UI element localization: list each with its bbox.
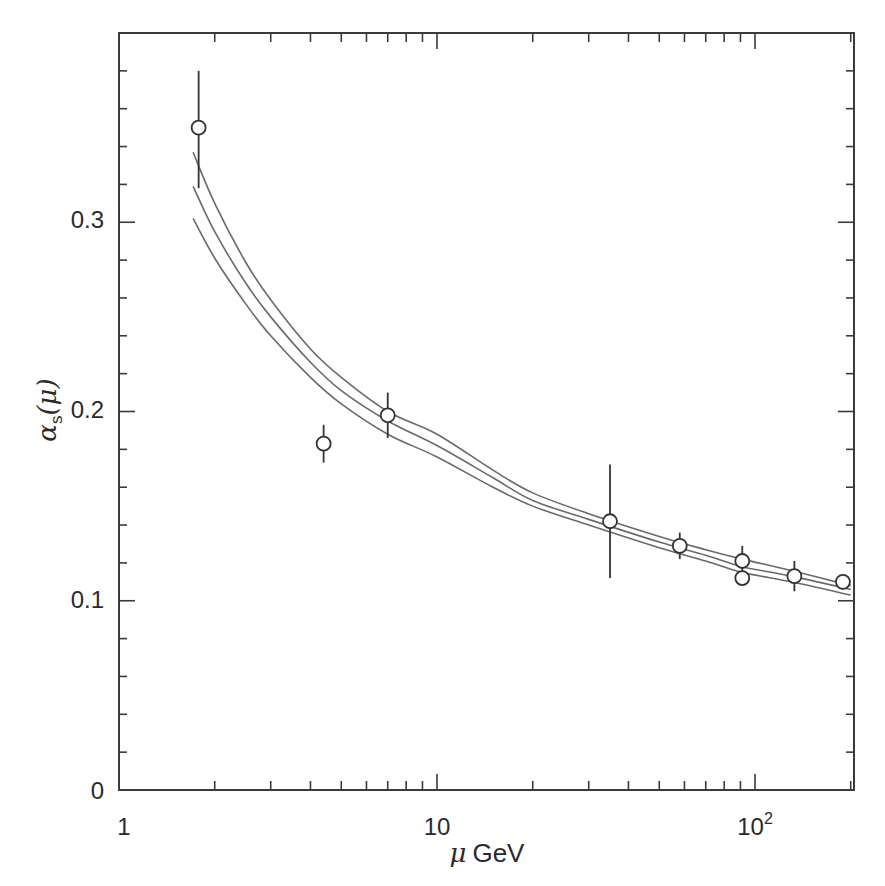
open-circle-marker xyxy=(381,408,395,422)
y-tick-label-0: 0 xyxy=(91,777,104,804)
open-circle-marker xyxy=(317,437,331,451)
open-circle-marker xyxy=(735,571,749,585)
x-axis-title-unit: GeV xyxy=(472,838,525,868)
open-circle-marker xyxy=(673,539,687,553)
x-tick-label-10: 10 xyxy=(424,813,451,840)
alpha-s-running-chart: 0 0.1 0.2 0.3 1 10 102 μGeV αs(μ) xyxy=(0,0,885,886)
open-circle-marker xyxy=(836,575,850,589)
y-axis-title-alpha: α xyxy=(32,424,62,442)
open-circle-marker xyxy=(192,121,206,135)
background xyxy=(0,0,885,886)
x-tick-label-100-exponent: 2 xyxy=(764,810,773,827)
y-axis-title-argument: (μ) xyxy=(32,378,62,415)
data-point xyxy=(735,570,749,585)
y-tick-label-0.1: 0.1 xyxy=(71,586,104,613)
x-tick-label-1: 1 xyxy=(117,813,130,840)
y-axis-title: αs(μ) xyxy=(32,378,66,441)
x-axis-title: μGeV xyxy=(450,838,526,868)
x-tick-label-100-base: 10 xyxy=(737,813,764,840)
y-tick-label-0.2: 0.2 xyxy=(71,396,104,423)
y-axis-title-subscript: s xyxy=(47,416,66,425)
open-circle-marker xyxy=(603,514,617,528)
y-tick-label-0.3: 0.3 xyxy=(71,206,104,233)
data-point xyxy=(836,574,850,589)
x-axis-title-mu: μ xyxy=(450,838,467,868)
open-circle-marker xyxy=(735,554,749,568)
svg-text:αs(μ): αs(μ) xyxy=(32,378,66,441)
open-circle-marker xyxy=(787,569,801,583)
